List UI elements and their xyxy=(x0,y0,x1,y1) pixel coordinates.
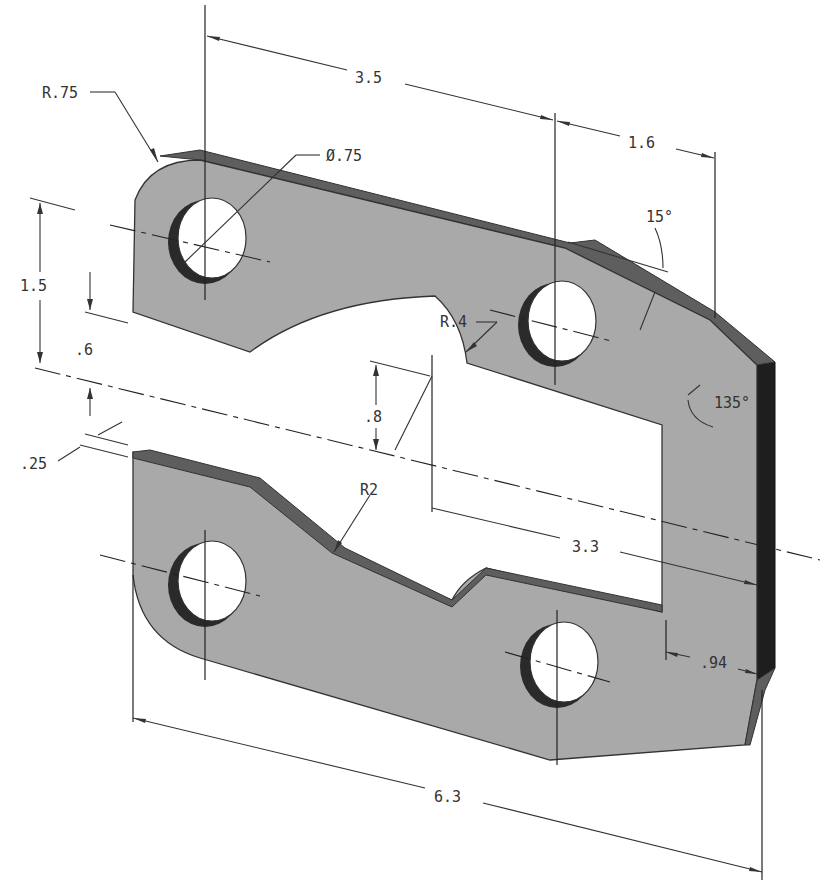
dim-right-offset: 1.6 xyxy=(628,134,655,152)
dim-slot-length: 3.3 xyxy=(572,538,599,556)
plate-right-side xyxy=(757,362,775,680)
dim-notch-radius: R.4 xyxy=(440,313,467,331)
dim-notch-height: .8 xyxy=(364,408,382,426)
dim-corner-radius: R.75 xyxy=(42,84,78,102)
dim-corner-angle: 135° xyxy=(714,394,750,412)
dim-hole-diameter: Ø.75 xyxy=(326,147,362,165)
dim-hole-vertical: 1.5 xyxy=(20,277,47,295)
dim-slot-end-margin: .94 xyxy=(700,654,727,672)
dim-slot-offset: .25 xyxy=(20,455,47,473)
dim-hole-spacing-top: 3.5 xyxy=(355,69,382,87)
dim-overall-length: 6.3 xyxy=(434,788,461,806)
dim-chamfer-angle: 15° xyxy=(646,208,673,226)
part-drawing: R.75 Ø.75 3.5 1.6 15° 1.5 .6 .25 R.4 .8 … xyxy=(0,0,836,889)
dim-slot-gap: .6 xyxy=(75,341,93,359)
dim-arc-radius: R2 xyxy=(360,481,378,499)
